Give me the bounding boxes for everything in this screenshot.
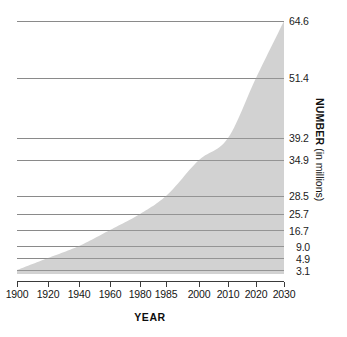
x-tick-mark-2000	[199, 282, 200, 287]
x-tick-label-1920: 1920	[33, 289, 63, 300]
x-tick-mark-1920	[48, 282, 49, 287]
chart-container: 64.6 51.4 39.2 34.9 28.5 25.7 16.7 9.0 4…	[0, 0, 347, 337]
x-tick-label-2000: 2000	[184, 289, 214, 300]
y-tick-label-3-1: 3.1	[289, 266, 330, 276]
x-tick-mark-2020	[256, 282, 257, 287]
x-tick-mark-1980	[140, 282, 141, 287]
x-axis-title: YEAR	[0, 311, 300, 323]
y-axis-title-bold: NUMBER	[314, 98, 326, 145]
x-tick-mark-2010	[228, 282, 229, 287]
x-tick-mark-1985	[166, 282, 167, 287]
y-tick-label-51-4: 51.4	[289, 73, 323, 83]
x-tick-label-2030: 2030	[269, 289, 299, 300]
x-tick-mark-1900	[17, 282, 18, 287]
y-axis-title: NUMBER (in millions)	[312, 98, 328, 226]
x-tick-label-1960: 1960	[95, 289, 125, 300]
y-tick-label-64-6: 64.6	[289, 16, 323, 26]
x-tick-label-1940: 1940	[64, 289, 94, 300]
area-chart-svg	[17, 18, 284, 274]
x-tick-label-1985: 1985	[151, 289, 181, 300]
x-axis-line	[17, 281, 284, 282]
x-tick-label-1900: 1900	[2, 289, 32, 300]
x-tick-label-2010: 2010	[213, 289, 243, 300]
y-tick-label-9-0: 9.0	[289, 242, 330, 252]
y-axis-title-regular: (in millions)	[314, 148, 326, 201]
x-tick-label-2020: 2020	[241, 289, 271, 300]
x-tick-mark-1940	[79, 282, 80, 287]
x-tick-mark-1960	[110, 282, 111, 287]
plot-area	[17, 18, 284, 274]
y-tick-label-4-9: 4.9	[289, 254, 330, 264]
area-series-fill	[17, 21, 284, 274]
y-tick-label-16-7: 16.7	[289, 226, 323, 236]
x-tick-mark-2030	[284, 282, 285, 287]
